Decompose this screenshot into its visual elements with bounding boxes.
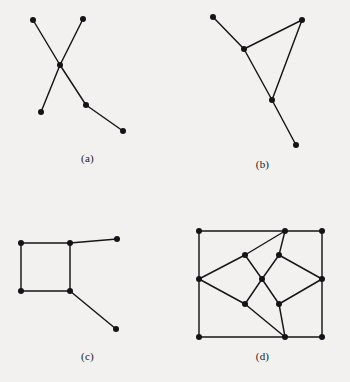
caption-a: (a) — [0, 152, 175, 164]
graph-vertex — [83, 102, 89, 108]
graph-panel-b: (b) — [175, 0, 350, 191]
graph-edge — [245, 231, 285, 255]
graph-edge — [199, 279, 245, 304]
graph-vertex — [299, 17, 305, 23]
graph-vertex — [276, 301, 282, 307]
graph-vertex — [319, 228, 325, 234]
caption-b: (b) — [175, 158, 350, 170]
graph-vertex — [293, 142, 299, 148]
graph-edge — [279, 279, 322, 304]
graph-vertex — [241, 46, 247, 52]
graph-edge — [41, 65, 60, 112]
graph-vertex — [196, 334, 202, 340]
graph-edge — [272, 100, 296, 145]
graph-vertex — [57, 62, 63, 68]
graph-edge — [60, 19, 83, 65]
graph-panel-a: (a) — [0, 0, 175, 191]
graph-edge — [279, 255, 322, 279]
graph-vertex — [67, 288, 73, 294]
graph-vertex — [210, 14, 216, 20]
graph-edge — [60, 65, 86, 105]
graph-edge — [262, 279, 279, 304]
graph-vertex — [282, 334, 288, 340]
caption-d: (d) — [175, 350, 350, 362]
graph-edge — [213, 17, 244, 49]
graph-vertex — [196, 276, 202, 282]
graph-vertex — [18, 288, 24, 294]
graph-panel-c: (c) — [0, 191, 175, 382]
graph-panel-d: (d) — [175, 191, 350, 382]
graph-vertex — [319, 276, 325, 282]
graph-vertex — [113, 326, 119, 332]
graph-vertex — [269, 97, 275, 103]
graph-edge — [245, 279, 262, 304]
graph-vertex — [80, 16, 86, 22]
graph-vertex — [242, 252, 248, 258]
graph-edge — [244, 49, 272, 100]
graph-vertex — [67, 240, 73, 246]
graph-edge — [70, 239, 117, 243]
graph-vertex — [259, 276, 265, 282]
graph-vertex — [196, 228, 202, 234]
graph-vertex — [282, 228, 288, 234]
caption-c: (c) — [0, 350, 175, 362]
graph-edge — [86, 105, 123, 131]
figure-root: (a) (b) (c) (d) — [0, 0, 350, 382]
graph-vertex — [276, 252, 282, 258]
graph-edge — [262, 255, 279, 279]
graph-vertex — [18, 240, 24, 246]
graph-vertex — [242, 301, 248, 307]
graph-edge — [70, 291, 116, 329]
graph-vertex — [120, 128, 126, 134]
graph-edge — [33, 20, 60, 65]
graph-vertex — [30, 17, 36, 23]
graph-vertex — [319, 334, 325, 340]
graph-edge — [245, 255, 262, 279]
graph-vertex — [38, 109, 44, 115]
graph-edge — [245, 304, 285, 337]
graph-vertex — [114, 236, 120, 242]
graph-edge — [199, 255, 245, 279]
